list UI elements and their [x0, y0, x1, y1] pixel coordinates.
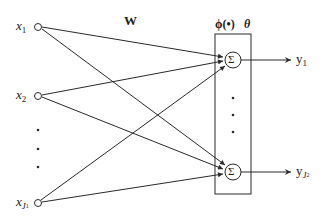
input-subscript: 2: [22, 94, 27, 104]
threshold-label: θ: [244, 18, 250, 30]
weight-edge-x1-yJ2: [42, 29, 225, 165]
output-var: y: [296, 51, 303, 66]
input-subscript: 1: [22, 25, 27, 35]
summation-symbol-1: Σ: [228, 54, 234, 65]
input-node-x1: [35, 24, 42, 31]
output-subscript: J: [303, 170, 307, 180]
input-label-x1: x1: [16, 19, 26, 32]
activation-function-label: ϕ(•): [215, 18, 235, 30]
input-subsubscript: 1: [26, 203, 29, 209]
summation-symbol-2: Σ: [228, 166, 234, 177]
ellipsis-dot-neuron: [232, 131, 235, 134]
input-label-xJ1: xJ1: [16, 195, 29, 208]
input-node-x2: [35, 93, 42, 100]
input-var: x: [16, 194, 22, 209]
weight-matrix-label: W: [124, 14, 137, 27]
network-diagram: [0, 0, 321, 221]
input-var: x: [16, 87, 22, 102]
ellipsis-dot-input: [37, 129, 40, 132]
output-label-y1: y1: [296, 52, 307, 65]
output-subscript: 1: [303, 58, 308, 68]
input-label-x2: x2: [16, 88, 26, 101]
weight-edge-x1-y1: [42, 27, 223, 57]
weight-edge-xJ1-y1: [41, 66, 225, 200]
ellipsis-dot-neuron: [232, 114, 235, 117]
weight-edge-x2-y1: [42, 61, 223, 95]
ellipsis-dot-neuron: [232, 97, 235, 100]
input-node-xJ1: [35, 200, 42, 207]
output-subsubscript: 2: [307, 172, 310, 178]
ellipsis-dot-input: [37, 148, 40, 151]
weight-edge-xJ1-yJ2: [42, 174, 223, 202]
ellipsis-dot-input: [37, 166, 40, 169]
input-var: x: [16, 18, 22, 33]
output-var: y: [296, 163, 303, 178]
output-label-yJ2: yJ2: [296, 164, 310, 177]
